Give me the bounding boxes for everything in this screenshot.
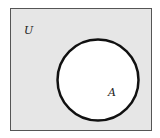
set-a-label: A bbox=[107, 86, 116, 99]
universe-label: U bbox=[24, 24, 34, 37]
venn-diagram: U A bbox=[0, 0, 160, 138]
set-a-circle bbox=[58, 40, 139, 121]
